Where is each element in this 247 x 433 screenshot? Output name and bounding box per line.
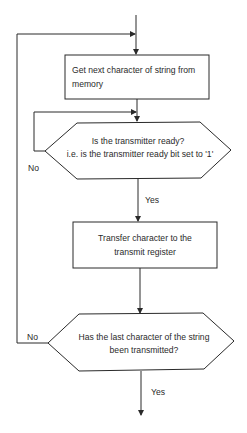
process-transfer-character (73, 222, 217, 268)
decision-last-character (48, 313, 234, 371)
flowchart: Get next character of string from memory… (0, 0, 247, 433)
label-tx-ready-yes: Yes (145, 195, 159, 205)
decision-last-character-line1: Has the last character of the string (79, 332, 210, 342)
decision-transmitter-ready-line2: i.e. is the transmitter ready bit set to… (67, 149, 214, 159)
process-transfer-character-line2: transmit register (114, 247, 176, 257)
process-transfer-character-line1: Transfer character to the (98, 233, 192, 243)
label-last-char-yes: Yes (151, 387, 165, 397)
label-last-char-no: No (27, 332, 38, 342)
decision-transmitter-ready-line1: Is the transmitter ready? (92, 136, 185, 146)
label-tx-ready-no: No (28, 163, 39, 173)
process-get-next-character (65, 55, 209, 99)
process-get-next-character-line2: memory (72, 79, 104, 89)
process-get-next-character-line1: Get next character of string from (72, 65, 195, 75)
decision-last-character-line2: been transmitted? (110, 345, 179, 355)
